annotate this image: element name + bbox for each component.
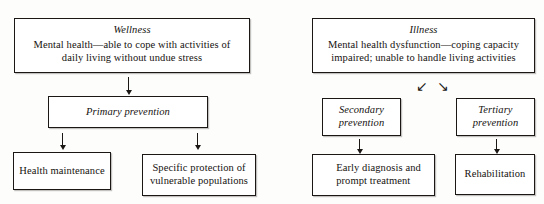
- arrow-illness-split-right-icon: ↘: [437, 79, 449, 93]
- wellness-header: Wellness: [113, 24, 150, 37]
- secondary-prevention-label: Secondary prevention: [339, 104, 385, 130]
- tertiary-prevention-box: Tertiary prevention: [456, 98, 535, 136]
- illness-description: Mental health dysfunction—coping capacit…: [328, 39, 519, 65]
- early-diagnosis-box: Early diagnosis and prompt treatment: [312, 154, 435, 196]
- primary-prevention-label: Primary prevention: [86, 106, 170, 119]
- health-maintenance-box: Health maintenance: [13, 152, 111, 190]
- diagram-canvas: Wellness Mental health—able to cope with…: [0, 0, 544, 204]
- rehabilitation-label: Rehabilitation: [465, 168, 526, 181]
- rehabilitation-box: Rehabilitation: [455, 154, 535, 195]
- illness-definition-box: Illness Mental health dysfunction—coping…: [312, 18, 535, 73]
- arrow-head: [60, 145, 66, 150]
- arrow-head: [195, 145, 201, 150]
- wellness-description: Mental health—able to cope with activiti…: [34, 39, 231, 65]
- specific-protection-box: Specific protection of vulnerable popula…: [142, 154, 256, 196]
- tertiary-prevention-label: Tertiary prevention: [473, 104, 519, 130]
- arrow-illness-split-left-icon: ↙: [416, 79, 428, 93]
- specific-protection-label: Specific protection of vulnerable popula…: [150, 162, 248, 188]
- secondary-prevention-box: Secondary prevention: [322, 98, 401, 136]
- illness-header: Illness: [409, 24, 437, 37]
- arrow-head: [126, 90, 132, 95]
- early-diagnosis-label: Early diagnosis and prompt treatment: [328, 162, 421, 188]
- health-maintenance-label: Health maintenance: [19, 165, 104, 178]
- primary-prevention-box: Primary prevention: [48, 96, 208, 128]
- wellness-definition-box: Wellness Mental health—able to cope with…: [14, 18, 250, 73]
